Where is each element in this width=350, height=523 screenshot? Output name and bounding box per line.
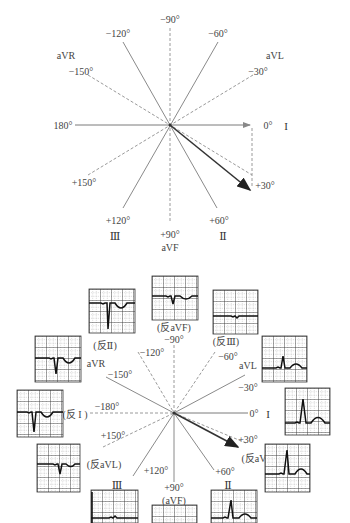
label-p90deg: +90° xyxy=(160,229,180,240)
b-label-m30deg: −30° xyxy=(238,382,258,393)
ecg-strip-avf xyxy=(152,505,197,523)
b-label-lead-i: I xyxy=(266,408,270,420)
b-label-m150deg: −150° xyxy=(108,369,133,380)
label-p60deg: +60° xyxy=(209,215,229,226)
label-lead-ii: Ⅱ xyxy=(219,230,226,242)
ecg-strip-i xyxy=(285,388,330,435)
label-m60deg: −60° xyxy=(208,28,228,39)
ecg-strip-iii xyxy=(91,490,138,523)
ecg-strip-avr xyxy=(35,336,81,382)
ecg-strip-ii xyxy=(211,490,257,523)
b-label-p150deg: +150° xyxy=(101,430,126,441)
axis-m30 xyxy=(174,375,245,413)
ecg-strip-inv-avr xyxy=(265,444,310,492)
bottom-lead-diagram: 0° I −180° (反 I ) −90° (反aVF) −120° −60°… xyxy=(17,276,330,523)
label-lead-avf: aVF xyxy=(161,242,179,253)
b-label-inv-ii: (反Ⅱ) xyxy=(93,340,116,352)
b-label-0deg: 0° xyxy=(250,408,259,419)
mean-axis-vector xyxy=(170,125,250,190)
ecg-strip-inv-i xyxy=(17,390,63,437)
center-point xyxy=(169,124,172,127)
ecg-strip-inv-ii xyxy=(89,289,135,333)
b-label-lead-avr: aVR xyxy=(87,358,106,369)
mean-axis-vector-bottom xyxy=(174,413,238,447)
label-p120deg: +120° xyxy=(106,215,131,226)
b-label-m120deg: −120° xyxy=(140,347,165,358)
b-label-m180deg: −180° xyxy=(95,401,120,412)
label-m150deg: −150° xyxy=(69,66,94,77)
label-lead-avl: aVL xyxy=(266,50,284,61)
b-label-inv-i: (反 I ) xyxy=(63,409,88,421)
axis-m60 xyxy=(174,352,215,413)
b-label-lead-ii: Ⅱ xyxy=(224,479,231,491)
ecg-strip-inv-avl xyxy=(37,444,80,492)
label-lead-iii: Ⅲ xyxy=(110,230,121,242)
b-label-p120deg: +120° xyxy=(144,465,169,476)
label-0deg: 0° xyxy=(264,120,273,131)
b-label-inv-avl: (反aVL) xyxy=(87,459,121,471)
label-lead-i: I xyxy=(284,120,288,132)
b-label-m60deg: −60° xyxy=(218,351,238,362)
b-label-m90deg: −90° xyxy=(164,334,184,345)
ecg-strip-inv-avf xyxy=(152,276,198,320)
ecg-strip-avl xyxy=(262,336,307,382)
ecg-strip-inv-iii xyxy=(213,290,258,334)
b-label-p90deg: +90° xyxy=(164,482,184,493)
label-m30deg: −30° xyxy=(248,66,268,77)
b-label-inv-iii: (反Ⅲ) xyxy=(213,336,239,348)
b-label-lead-avl: aVL xyxy=(239,360,257,371)
label-lead-avr: aVR xyxy=(57,50,76,61)
center-point-bottom xyxy=(173,412,176,415)
label-180deg: 180° xyxy=(54,120,73,131)
hexaxial-diagrams: 0° I 180° −90° +90° aVF −120° −60° aVR −… xyxy=(0,0,350,523)
label-m90deg: −90° xyxy=(160,14,180,25)
top-hexaxial-diagram: 0° I 180° −90° +90° aVF −120° −60° aVR −… xyxy=(54,14,289,253)
label-m120deg: −120° xyxy=(106,28,131,39)
b-label-p30deg: +30° xyxy=(238,434,258,445)
label-p30deg: +30° xyxy=(255,180,275,191)
label-p150deg: +150° xyxy=(72,177,97,188)
b-label-inv-avf: (反aVF) xyxy=(157,322,191,334)
b-label-p60deg: +60° xyxy=(215,466,235,477)
b-label-lead-iii: Ⅲ xyxy=(112,479,123,491)
